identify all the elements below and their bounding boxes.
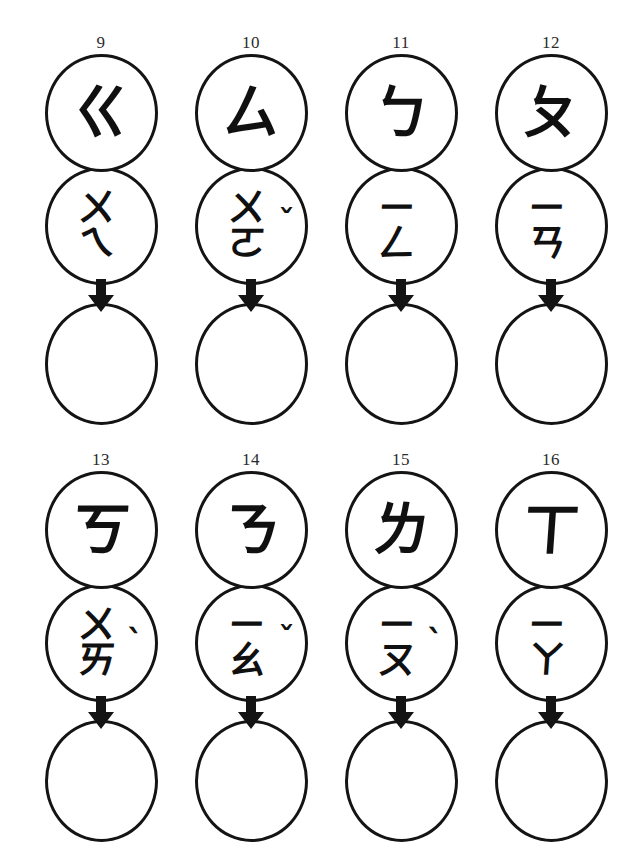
initial-circle: ㄙ (195, 54, 308, 172)
exercise-item-16: 16 ㄒ ㄧ ㄚ (476, 451, 626, 842)
item-number: 15 (392, 451, 410, 468)
initial-glyph: ㄎ (70, 501, 132, 559)
down-arrow-icon (536, 279, 566, 313)
down-arrow-icon (386, 696, 416, 730)
tone-mark: ˋ (424, 624, 443, 659)
exercise-item-9: 9 ㄍ ㄨ ㄟ (26, 34, 176, 425)
rime-glyph: ㄠ (227, 643, 267, 678)
final-circle: ㄧ ㄥ (345, 167, 458, 285)
initial-glyph: ㄋ (220, 501, 282, 559)
answer-circle[interactable] (195, 720, 308, 842)
rime-glyph: ㄟ (77, 226, 117, 261)
down-arrow-icon (236, 279, 266, 313)
initial-glyph: ㄆ (520, 84, 582, 142)
answer-circle[interactable] (345, 720, 458, 842)
final-circle: ㄨ ㄟ (45, 167, 158, 285)
rime-glyph: ㄢ (527, 226, 567, 261)
down-arrow-icon (536, 696, 566, 730)
answer-circle[interactable] (495, 720, 608, 842)
rime-glyph: ㄚ (527, 643, 567, 678)
answer-circle[interactable] (45, 303, 158, 425)
exercise-item-10: 10 ㄙ ㄨ ㄛ ˇ (176, 34, 326, 425)
final-circle: ㄨ ㄛ ˇ (195, 167, 308, 285)
down-arrow-icon (86, 279, 116, 313)
tone-mark: ˋ (124, 624, 143, 659)
item-number: 14 (242, 451, 260, 468)
final-circle: ㄨ ㄞ ˋ (45, 584, 158, 702)
initial-circle: ㄎ (45, 471, 158, 589)
exercise-item-14: 14 ㄋ ㄧ ㄠ ˇ (176, 451, 326, 842)
answer-circle[interactable] (45, 720, 158, 842)
tone-mark: ˇ (279, 623, 295, 655)
item-number: 9 (97, 34, 106, 51)
down-arrow-icon (236, 696, 266, 730)
down-arrow-icon (86, 696, 116, 730)
initial-glyph: ㄌ (370, 501, 432, 559)
final-circle: ㄧ ㄠ ˇ (195, 584, 308, 702)
item-number: 16 (542, 451, 560, 468)
initial-glyph: ㄅ (370, 84, 432, 142)
tone-mark: ˇ (279, 206, 295, 238)
item-number: 12 (542, 34, 560, 51)
rime-glyph: ㄡ (377, 643, 417, 678)
exercise-item-11: 11 ㄅ ㄧ ㄥ (326, 34, 476, 425)
rime-glyph: ㄛ (227, 226, 267, 261)
item-number: 11 (392, 34, 409, 51)
initial-circle: ㄋ (195, 471, 308, 589)
answer-circle[interactable] (195, 303, 308, 425)
exercise-item-15: 15 ㄌ ㄧ ㄡ ˋ (326, 451, 476, 842)
item-number: 10 (242, 34, 260, 51)
initial-circle: ㄍ (45, 54, 158, 172)
answer-circle[interactable] (345, 303, 458, 425)
rime-glyph: ㄥ (377, 226, 417, 261)
initial-glyph: ㄙ (220, 84, 282, 142)
initial-glyph: ㄍ (70, 84, 132, 142)
exercise-row-bottom: 13 ㄎ ㄨ ㄞ ˋ (0, 425, 644, 842)
down-arrow-icon (386, 279, 416, 313)
initial-circle: ㄒ (495, 471, 608, 589)
final-circle: ㄧ ㄚ (495, 584, 608, 702)
worksheet-page: 9 ㄍ ㄨ ㄟ (0, 0, 644, 866)
initial-circle: ㄅ (345, 54, 458, 172)
answer-circle[interactable] (495, 303, 608, 425)
exercise-item-12: 12 ㄆ ㄧ ㄢ (476, 34, 626, 425)
item-number: 13 (92, 451, 110, 468)
initial-glyph: ㄒ (520, 501, 582, 559)
exercise-row-top: 9 ㄍ ㄨ ㄟ (0, 0, 644, 425)
initial-circle: ㄌ (345, 471, 458, 589)
initial-circle: ㄆ (495, 54, 608, 172)
final-circle: ㄧ ㄡ ˋ (345, 584, 458, 702)
exercise-item-13: 13 ㄎ ㄨ ㄞ ˋ (26, 451, 176, 842)
final-circle: ㄧ ㄢ (495, 167, 608, 285)
rime-glyph: ㄞ (77, 643, 117, 678)
